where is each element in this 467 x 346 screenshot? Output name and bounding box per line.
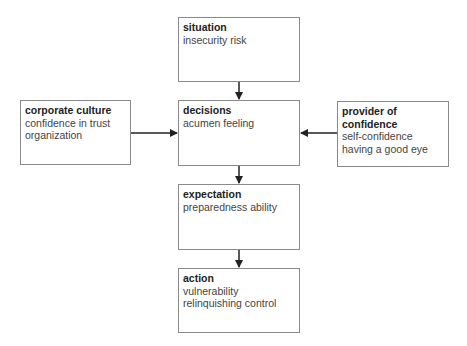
node-title: expectation: [183, 188, 295, 201]
node-corporate-culture: corporate culture confidence in trust or…: [20, 100, 131, 165]
node-line: vulnerability: [183, 285, 295, 298]
node-line: insecurity risk: [183, 34, 295, 47]
node-line: preparedness ability: [183, 201, 295, 214]
node-line: relinquishing control: [183, 297, 295, 310]
node-line: having a good eye: [342, 143, 444, 156]
node-expectation: expectation preparedness ability: [178, 184, 300, 250]
node-provider-of-confidence: provider of confidence self-confidence h…: [337, 101, 449, 167]
node-situation: situation insecurity risk: [178, 17, 300, 82]
node-action: action vulnerability relinquishing contr…: [178, 268, 300, 333]
node-title: decisions: [183, 104, 295, 117]
node-line: self-confidence: [342, 130, 444, 143]
node-line: organization: [25, 129, 126, 142]
node-line: acumen feeling: [183, 117, 295, 130]
node-line: confidence in trust: [25, 117, 126, 130]
node-title: action: [183, 272, 295, 285]
node-title: situation: [183, 21, 295, 34]
node-decisions: decisions acumen feeling: [178, 100, 300, 166]
node-title: provider of confidence: [342, 105, 444, 130]
node-title: corporate culture: [25, 104, 126, 117]
